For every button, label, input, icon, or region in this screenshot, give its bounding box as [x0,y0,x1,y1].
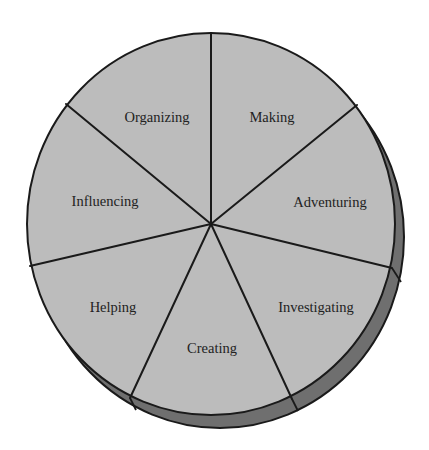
interest-wheel: Organizing Making Adventuring Investigat… [0,0,429,450]
segment-label-helping: Helping [90,299,137,315]
segment-label-organizing: Organizing [125,109,190,125]
segment-label-influencing: Influencing [72,193,139,209]
segment-label-adventuring: Adventuring [293,194,366,210]
segment-label-making: Making [249,109,294,125]
segment-label-investigating: Investigating [278,299,354,315]
segment-label-creating: Creating [187,340,237,356]
